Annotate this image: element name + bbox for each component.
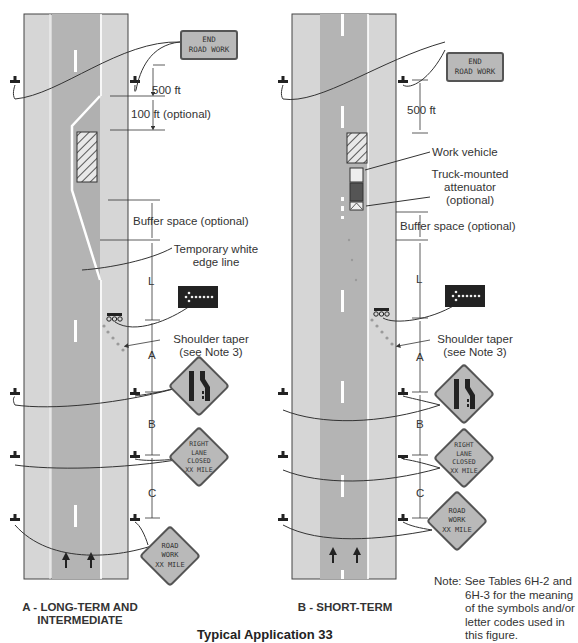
sign-text: LANE [456, 450, 472, 459]
caption-line: INTERMEDIATE [10, 614, 150, 627]
sign-text: END [448, 57, 502, 67]
lane-ends-icon [433, 363, 495, 425]
end-road-work-sign-b: END ROAD WORK [446, 52, 504, 82]
lane-ends-sign-a [168, 355, 230, 417]
label-line: (see Note 3) [166, 346, 256, 359]
road-work-ahead-sign-a: ROAD WORK XX MILE [139, 525, 201, 587]
sign-text: WORK [449, 516, 466, 526]
caption-line: B - SHORT-TERM [290, 601, 400, 614]
label-line: Temporary white [166, 243, 266, 256]
taper-length-L-b: L [416, 273, 422, 286]
sign-text: XX MILE [185, 466, 212, 475]
sign-text: CLOSED [187, 457, 210, 466]
sign-text: XX MILE [442, 526, 472, 536]
edge-line-label: Temporary white edge line [166, 243, 266, 269]
sign-text: ROAD [449, 507, 466, 517]
label-line: Shoulder taper [166, 333, 256, 346]
taper-length-L-a: L [148, 275, 154, 288]
note-line: of the symbols and/or [434, 602, 575, 616]
figure-note: Note: See Tables 6H-2 and 6H-3 for the m… [434, 575, 575, 643]
sign-text: ROAD WORK [448, 67, 502, 77]
dim-500ft-b: 500 ft [407, 104, 436, 117]
label-line: (see Note 3) [430, 346, 520, 359]
sign-text: CLOSED [452, 458, 475, 467]
caption-b: B - SHORT-TERM [290, 601, 400, 614]
shoulder-taper-label-a: Shoulder taper (see Note 3) [166, 333, 256, 359]
dim-A-a: A [148, 349, 156, 362]
label-line: Shoulder taper [430, 333, 520, 346]
sign-text: END [182, 35, 236, 45]
dim-A-b: A [416, 351, 424, 364]
sign-text: ROAD WORK [182, 45, 236, 55]
dim-C-a: C [148, 487, 156, 500]
right-lane-closed-sign-a: RIGHT LANE CLOSED XX MILE [168, 426, 230, 488]
figure-title: Typical Application 33 [197, 627, 333, 642]
caption-a: A - LONG-TERM AND INTERMEDIATE [10, 601, 150, 627]
arrow-board-b [445, 285, 485, 307]
end-road-work-sign-a: END ROAD WORK [180, 30, 238, 60]
dim-B-a: B [148, 418, 156, 431]
road-a [24, 14, 128, 579]
lane-ends-sign-b [433, 363, 495, 425]
buffer-space-label-a: Buffer space (optional) [133, 215, 249, 228]
road-work-ahead-sign-b: ROAD WORK XX MILE [426, 490, 488, 552]
label-line: Truck-mounted [420, 168, 520, 181]
dim-100ft-a: 100 ft (optional) [131, 108, 211, 121]
tma-label: Truck-mounted attenuator (optional) [420, 168, 520, 207]
arrow-board-a [178, 286, 218, 308]
sign-text: ROAD [162, 542, 179, 552]
dim-C-b: C [416, 487, 424, 500]
label-line: attenuator [420, 181, 520, 194]
caption-line: A - LONG-TERM AND [10, 601, 150, 614]
label-line: edge line [166, 256, 266, 269]
work-vehicle-label: Work vehicle [432, 146, 498, 159]
buffer-space-label-b: Buffer space (optional) [400, 220, 516, 233]
note-line: letter codes used in [434, 616, 575, 630]
sign-text: RIGHT [189, 440, 209, 449]
lane-ends-icon [168, 355, 230, 417]
label-line: (optional) [420, 194, 520, 207]
note-line: 6H-3 for the meaning [434, 589, 575, 603]
dim-500ft-a: 500 ft [152, 84, 181, 97]
note-line: Note: See Tables 6H-2 and [434, 575, 575, 589]
road-b [292, 14, 396, 579]
dim-B-b: B [416, 418, 424, 431]
sign-text: XX MILE [450, 467, 477, 476]
right-lane-closed-sign-b: RIGHT LANE CLOSED XX MILE [433, 427, 495, 489]
sign-text: WORK [162, 551, 179, 561]
note-line: this figure. [434, 629, 575, 643]
shoulder-taper-label-b: Shoulder taper (see Note 3) [430, 333, 520, 359]
sign-text: XX MILE [155, 561, 185, 571]
sign-text: RIGHT [454, 441, 474, 450]
sign-text: LANE [191, 449, 207, 458]
